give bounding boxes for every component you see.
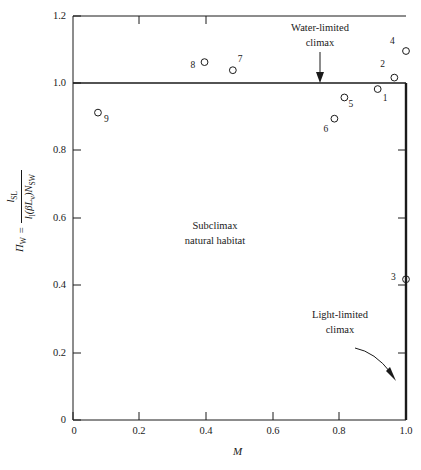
- data-point-label: 1: [383, 93, 388, 103]
- y-tick-label: 1.2: [40, 10, 66, 21]
- data-point-label: 2: [380, 59, 385, 69]
- y-tick-label: 1.0: [40, 77, 66, 88]
- data-point-marker: [374, 86, 381, 93]
- x-axis-top-ticks: [139, 16, 206, 24]
- annotation-line1: Light-limited: [285, 307, 395, 322]
- y-tick-label: 0: [40, 414, 66, 425]
- x-tick-label: 0: [66, 425, 82, 436]
- data-point-marker: [331, 115, 338, 122]
- annotation-line2: climax: [285, 322, 395, 337]
- data-point-label: 8: [191, 60, 196, 70]
- x-tick-label: 0.2: [125, 425, 153, 436]
- annotation-subclimax: Subclimax natural habitat: [150, 218, 280, 248]
- y-axis-fraction: lSL ll(βLv)NSW: [5, 170, 38, 223]
- data-point-marker: [201, 59, 208, 66]
- data-point-marker: [341, 94, 348, 101]
- data-point-marker: [403, 48, 410, 55]
- annotation-line1: Water-limited: [260, 20, 380, 35]
- annotation-line2: climax: [260, 35, 380, 50]
- data-point-label: 4: [390, 36, 395, 46]
- x-tick-label: 0.4: [192, 425, 220, 436]
- x-axis-ticks: [73, 412, 406, 420]
- y-tick-label: 0.8: [40, 144, 66, 155]
- data-point-label: 7: [238, 54, 243, 64]
- data-point-marker: [391, 74, 398, 81]
- data-point-label: 5: [348, 99, 353, 109]
- y-tick-label: 0.4: [40, 279, 66, 290]
- y-axis-numerator: lSL: [5, 187, 21, 207]
- data-point-label: 3: [391, 272, 396, 282]
- x-axis-title: M: [233, 445, 242, 457]
- y-axis-ticks: [73, 16, 81, 420]
- x-tick-label: 0.8: [325, 425, 353, 436]
- data-point-label: 6: [323, 124, 328, 134]
- y-axis-denominator: ll(βLv)NSW: [21, 170, 38, 223]
- data-point-marker: [229, 67, 236, 74]
- data-point-marker: [95, 109, 102, 116]
- x-tick-label: 0.6: [259, 425, 287, 436]
- data-point-label: 9: [104, 114, 109, 124]
- y-axis-equals: =: [16, 227, 27, 233]
- annotation-light-limited-climax: Light-limited climax: [285, 307, 395, 337]
- y-tick-label: 0.6: [40, 212, 66, 223]
- scatter-chart-figure: 1.2 1.0 0.8 0.6 0.4 0.2 0 0 0.2 0.4 0.6 …: [0, 0, 421, 470]
- annotation-water-limited-climax: Water-limited climax: [260, 20, 380, 50]
- y-axis-symbol: ΠW: [14, 237, 28, 252]
- annotation-line2: natural habitat: [150, 233, 280, 248]
- x-tick-label: 1.0: [392, 425, 420, 436]
- y-axis-title: ΠW = lSL ll(βLv)NSW: [0, 146, 42, 276]
- water-limited-climax-arrow: [316, 52, 324, 83]
- light-limited-climax-arrow: [355, 348, 396, 381]
- y-tick-label: 0.2: [40, 347, 66, 358]
- annotation-line1: Subclimax: [150, 218, 280, 233]
